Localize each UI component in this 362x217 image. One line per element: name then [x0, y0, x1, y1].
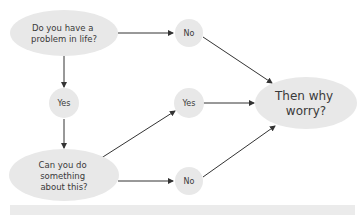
edge-no-bottom-to-conclusion — [203, 126, 275, 177]
node-yes-left: Yes — [49, 88, 79, 118]
conclusion-line1: Then why — [274, 89, 333, 103]
svg-text:Can you do something: Can you do something about this? — [39, 160, 90, 192]
question1-line2: problem in life? — [31, 34, 97, 44]
no-bottom-label: No — [184, 177, 195, 186]
node-no-bottom: No — [175, 167, 203, 195]
flowchart-canvas: Do you have a problem in life? No Yes Ye… — [0, 0, 362, 217]
question1-line1: Do you have a — [32, 23, 94, 33]
yes-right-label: Yes — [182, 99, 196, 108]
node-no-top: No — [175, 19, 203, 47]
edge-no-top-to-conclusion — [203, 37, 272, 83]
no-top-label: No — [184, 29, 195, 38]
svg-text:Do you have a problem in: Do you have a problem in life? — [31, 23, 97, 44]
question2-line3: about this? — [40, 182, 87, 192]
node-question2: Can you do something about this? — [9, 149, 119, 201]
question2-line1: Can you do — [39, 160, 87, 170]
bottom-divider-bar — [10, 205, 355, 215]
edge-question2-to-yes — [95, 111, 175, 162]
node-conclusion: Then why worry? — [255, 77, 357, 129]
node-yes-right: Yes — [174, 88, 204, 118]
question2-line2: something — [40, 171, 85, 181]
node-question1: Do you have a problem in life? — [10, 10, 118, 56]
conclusion-line2: worry? — [286, 104, 326, 118]
yes-left-label: Yes — [57, 99, 71, 108]
